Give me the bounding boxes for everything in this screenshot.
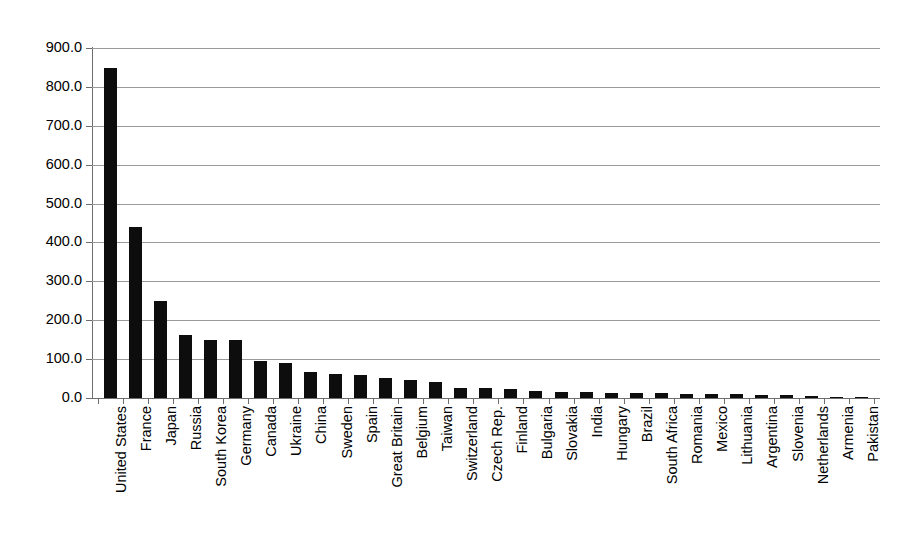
x-axis-tick-mark <box>599 398 600 404</box>
x-axis-tick-label: Lithuania <box>741 406 754 465</box>
y-axis-tick-label: 900.0 <box>0 40 82 55</box>
bar <box>329 374 342 398</box>
gridline <box>92 281 880 282</box>
x-axis-tick-label: Japan <box>165 406 178 446</box>
bar <box>104 68 117 398</box>
y-axis-tick-label: 800.0 <box>0 79 82 94</box>
x-axis-tick-mark <box>298 398 299 404</box>
x-axis-tick-label: Pakistan <box>867 406 880 462</box>
bar-chart-figure: 0.0100.0200.0300.0400.0500.0600.0700.080… <box>0 0 914 542</box>
x-axis-tick-label: Switzerland <box>466 406 479 481</box>
x-axis-tick-label: Ukraine <box>290 406 303 456</box>
x-axis-tick-mark <box>273 398 274 404</box>
x-axis-tick-mark <box>423 398 424 404</box>
x-axis-tick-label: Mexico <box>716 406 729 452</box>
x-axis-tick-label: Germany <box>240 406 253 466</box>
x-axis-tick-mark <box>173 398 174 404</box>
x-axis-tick-label: China <box>315 406 328 444</box>
y-axis-tick-label: 600.0 <box>0 157 82 172</box>
x-axis-tick-label: Taiwan <box>441 406 454 451</box>
gridline <box>92 87 880 88</box>
bar <box>529 391 542 398</box>
x-axis-tick-mark <box>849 398 850 404</box>
x-axis-tick-mark <box>198 398 199 404</box>
x-axis-tick-mark <box>398 398 399 404</box>
x-axis-tick-label: South Korea <box>215 406 228 487</box>
x-axis-tick-label: India <box>591 406 604 437</box>
plot-area <box>92 48 880 398</box>
bar <box>454 388 467 398</box>
bar <box>129 227 142 398</box>
x-axis-tick-label: Spain <box>366 406 379 443</box>
x-axis-ticks <box>92 398 880 405</box>
y-axis-tick-label: 400.0 <box>0 234 82 249</box>
x-axis-tick-label: Slovenia <box>792 406 805 462</box>
x-axis-tick-label: France <box>140 406 153 451</box>
bar <box>154 301 167 398</box>
x-axis-tick-mark <box>373 398 374 404</box>
gridline <box>92 320 880 321</box>
x-axis-tick-label: Hungary <box>616 406 629 461</box>
x-axis-tick-label: Romania <box>691 406 704 464</box>
bar <box>254 361 267 398</box>
bar <box>279 363 292 398</box>
bar <box>229 340 242 398</box>
gridline <box>92 242 880 243</box>
x-axis-tick-mark <box>148 398 149 404</box>
x-axis-tick-label: Argentina <box>766 406 779 468</box>
bar <box>429 382 442 398</box>
x-axis-tick-label: Sweden <box>341 406 354 458</box>
x-axis-tick-mark <box>774 398 775 404</box>
x-axis-tick-mark <box>699 398 700 404</box>
x-axis-tick-label: Slovakia <box>566 406 579 461</box>
x-axis-tick-mark <box>473 398 474 404</box>
x-axis-tick-mark <box>624 398 625 404</box>
x-axis-tick-mark <box>749 398 750 404</box>
x-axis-tick-label: South Africa <box>666 406 679 484</box>
x-axis-labels: United StatesFranceJapanRussiaSouth Kore… <box>92 406 880 542</box>
y-axis-tick-label: 700.0 <box>0 118 82 133</box>
x-axis-tick-mark <box>123 398 124 404</box>
y-axis-tick-label: 500.0 <box>0 196 82 211</box>
x-axis-tick-label: Czech Rep. <box>491 406 504 482</box>
x-axis-tick-mark <box>724 398 725 404</box>
x-axis-tick-mark <box>799 398 800 404</box>
x-axis-tick-mark <box>824 398 825 404</box>
x-axis-tick-mark <box>523 398 524 404</box>
y-axis-labels: 0.0100.0200.0300.0400.0500.0600.0700.080… <box>0 0 86 542</box>
x-axis-tick-mark <box>874 398 875 404</box>
x-axis-tick-mark <box>549 398 550 404</box>
x-axis-tick-mark <box>348 398 349 404</box>
x-axis-tick-mark <box>498 398 499 404</box>
x-axis-tick-label: Netherlands <box>817 406 830 484</box>
x-axis-tick-label: Russia <box>190 406 203 450</box>
gridline <box>92 204 880 205</box>
x-axis-tick-label: Canada <box>265 406 278 457</box>
x-axis-tick-mark <box>574 398 575 404</box>
bar <box>179 335 192 398</box>
bar <box>354 375 367 398</box>
bar <box>379 378 392 398</box>
x-axis-tick-label: Bulgaria <box>541 406 554 459</box>
x-axis-tick-mark <box>323 398 324 404</box>
x-axis-tick-label: Finland <box>516 406 529 454</box>
gridline <box>92 48 880 49</box>
x-axis-tick-label: Belgium <box>416 406 429 458</box>
y-axis-tick-label: 300.0 <box>0 273 82 288</box>
bar <box>479 388 492 398</box>
y-axis-tick-label: 200.0 <box>0 312 82 327</box>
x-axis-tick-label: United States <box>115 406 128 493</box>
bar <box>304 372 317 398</box>
gridline <box>92 165 880 166</box>
bar <box>504 389 517 398</box>
x-axis-tick-mark <box>448 398 449 404</box>
x-axis-tick-mark <box>223 398 224 404</box>
x-axis-tick-mark <box>674 398 675 404</box>
x-axis-tick-label: Great Britain <box>391 406 404 487</box>
bar <box>204 340 217 398</box>
x-axis-tick-label: Armenia <box>842 406 855 460</box>
gridline <box>92 126 880 127</box>
y-axis-tick-label: 100.0 <box>0 351 82 366</box>
x-axis-tick-mark <box>248 398 249 404</box>
x-axis-tick-mark <box>649 398 650 404</box>
